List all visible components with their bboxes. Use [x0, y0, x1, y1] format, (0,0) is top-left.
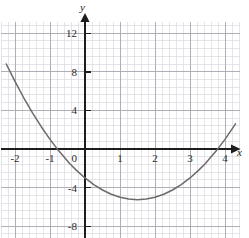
y-tick-label: -4	[68, 182, 78, 194]
x-tick-label: 1	[117, 152, 123, 164]
x-tick-label: -1	[45, 152, 54, 164]
graph-figure: 1284-4-8-2-101234 x y	[0, 0, 249, 238]
x-tick-label: 0	[72, 152, 78, 164]
y-tick-label: -8	[68, 220, 78, 232]
x-tick-label: -2	[10, 152, 19, 164]
parabola-plot: 1284-4-8-2-101234 x y	[0, 0, 249, 238]
y-tick-label: 8	[72, 66, 78, 78]
y-axis-label: y	[79, 1, 85, 13]
x-tick-label: 3	[187, 152, 193, 164]
y-tick-label: 4	[72, 104, 78, 116]
x-tick-label: 2	[152, 152, 158, 164]
x-axis-label: x	[236, 146, 242, 158]
y-tick-label: 12	[66, 27, 77, 39]
plot-background	[0, 0, 249, 238]
x-tick-label: 4	[222, 152, 228, 164]
